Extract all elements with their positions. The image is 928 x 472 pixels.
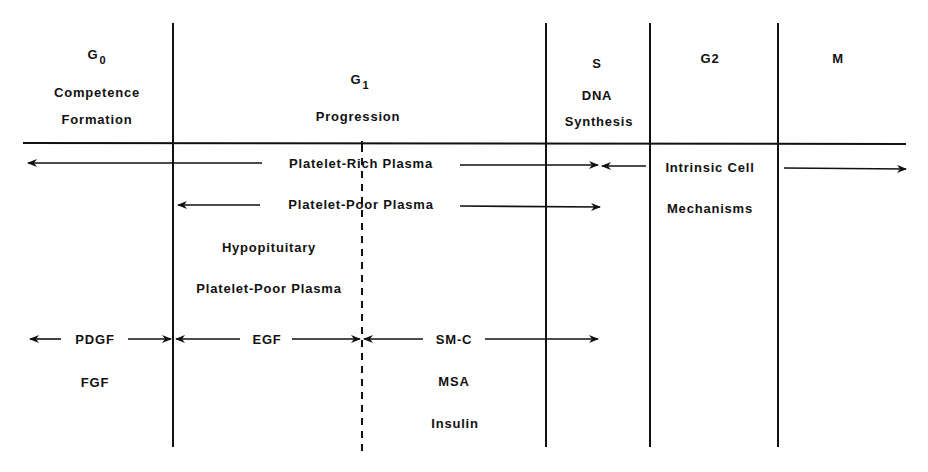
phase-g0-symbol: G (88, 47, 99, 62)
phase-g0-label: G0 (88, 48, 107, 61)
phase-g1-label: G1 (351, 73, 370, 86)
mechanisms-label: Mechanisms (667, 202, 753, 215)
phase-s-line1: DNA (582, 89, 613, 102)
ppp-right-arrow (460, 206, 600, 207)
phase-g1-subscript: 1 (363, 79, 370, 91)
hypopituitary-label: Hypopituitary (222, 241, 316, 254)
egf-label: EGF (252, 333, 281, 346)
platelet-poor-plasma-label: Platelet-Poor Plasma (288, 198, 433, 211)
hypopituitary-ppp-label: Platelet-Poor Plasma (196, 282, 341, 295)
phase-m-label: M (832, 52, 844, 65)
phase-g0-line2: Formation (62, 113, 133, 126)
phase-g1-symbol: G (351, 72, 362, 87)
fgf-label: FGF (81, 376, 109, 389)
intrinsic-right-arrow (784, 168, 906, 169)
pdgf-label: PDGF (75, 333, 114, 346)
phase-header-divider (23, 143, 906, 144)
platelet-rich-plasma-label: Platelet-Rich Plasma (289, 157, 433, 170)
diagram-lines (0, 0, 928, 472)
phase-g0-subscript: 0 (100, 54, 107, 66)
phase-g1-line1: Progression (316, 110, 401, 123)
phase-g2-label: G2 (701, 52, 720, 65)
smc-label: SM-C (436, 333, 472, 346)
phase-s-label: S (592, 57, 601, 70)
intrinsic-cell-label: Intrinsic Cell (665, 161, 754, 174)
msa-label: MSA (438, 375, 469, 388)
phase-g0-line1: Competence (54, 86, 140, 99)
insulin-label: Insulin (431, 417, 479, 430)
phase-s-line2: Synthesis (565, 115, 634, 128)
